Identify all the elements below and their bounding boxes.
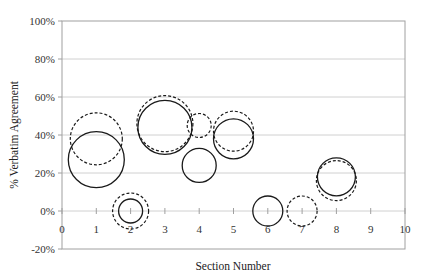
x-tick-label: 7 [299, 223, 305, 235]
x-tick-label: 5 [231, 223, 237, 235]
y-axis-ticks: -20%0%20%40%60%80%100% [29, 15, 62, 255]
solid-bubble [317, 158, 355, 196]
x-tick-label: 9 [368, 223, 374, 235]
bubble-chart: -20%0%20%40%60%80%100% 012345678910 % Ve… [0, 0, 422, 277]
x-tick-label: 8 [334, 223, 340, 235]
gridlines [62, 59, 405, 211]
x-tick-label: 6 [265, 223, 271, 235]
x-tick-label: 1 [94, 223, 100, 235]
y-tick-label: -20% [31, 243, 55, 255]
x-tick-label: 3 [162, 223, 168, 235]
y-tick-label: 40% [35, 129, 55, 141]
solid-bubble [214, 119, 254, 159]
dashed-bubble [214, 111, 254, 151]
dashed-bubble [316, 161, 356, 201]
x-tick-label: 0 [59, 223, 65, 235]
y-tick-label: 80% [35, 53, 55, 65]
x-axis-title: Section Number [195, 260, 270, 272]
y-tick-label: 20% [35, 167, 55, 179]
bubble-series [68, 96, 356, 229]
x-tick-label: 10 [400, 223, 412, 235]
y-axis-title: % Verbatim Agreement [8, 80, 21, 189]
x-axis-ticks: 012345678910 [59, 208, 411, 235]
x-tick-label: 4 [196, 223, 202, 235]
solid-bubble [138, 100, 192, 154]
solid-bubble [68, 132, 124, 188]
y-tick-label: 60% [35, 91, 55, 103]
dashed-bubble [137, 96, 193, 152]
y-tick-label: 0% [40, 205, 55, 217]
solid-bubble [182, 148, 216, 182]
y-tick-label: 100% [29, 15, 55, 27]
